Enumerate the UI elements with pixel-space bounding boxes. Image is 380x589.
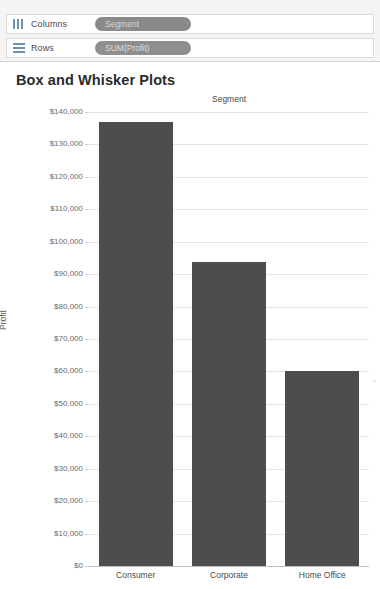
- y-tick-label: $20,000: [54, 496, 83, 505]
- y-tick-mark: [85, 112, 89, 113]
- rows-shelf-label: Rows: [31, 43, 95, 53]
- y-tick-mark: [85, 274, 89, 275]
- y-tick-mark: [85, 566, 89, 567]
- y-tick-label: $70,000: [54, 334, 83, 343]
- y-tick-label: $60,000: [54, 366, 83, 375]
- y-tick-label: $0: [74, 561, 83, 570]
- y-tick-mark: [85, 242, 89, 243]
- y-tick-label: $90,000: [54, 269, 83, 278]
- x-tick-label: Consumer: [89, 570, 182, 580]
- bar-mark[interactable]: [99, 122, 173, 566]
- rows-shelf[interactable]: Rows SUM(Profit): [6, 38, 374, 58]
- y-tick-mark: [85, 501, 89, 502]
- columns-shelf[interactable]: Columns Segment: [6, 14, 374, 34]
- shelf-panel: Columns Segment Rows SUM(Profit): [0, 0, 380, 62]
- columns-shelf-label: Columns: [31, 19, 95, 29]
- y-tick-label: $100,000: [50, 237, 83, 246]
- x-tick-label: Home Office: [276, 570, 369, 580]
- y-tick-mark: [85, 436, 89, 437]
- plot-canvas: [89, 112, 369, 566]
- x-axis-labels: ConsumerCorporateHome Office: [89, 570, 369, 584]
- pill-sum-profit[interactable]: SUM(Profit): [95, 41, 191, 55]
- y-tick-label: $80,000: [54, 302, 83, 311]
- y-tick-mark: [85, 404, 89, 405]
- y-tick-label: $120,000: [50, 172, 83, 181]
- y-tick-mark: [85, 339, 89, 340]
- y-tick-mark: [85, 144, 89, 145]
- y-tick-label: $10,000: [54, 529, 83, 538]
- gridline: [89, 112, 369, 113]
- y-tick-mark: [85, 177, 89, 178]
- y-axis-labels: $0$10,000$20,000$30,000$40,000$50,000$60…: [27, 112, 83, 566]
- y-tick-label: $30,000: [54, 464, 83, 473]
- y-tick-label: $130,000: [50, 139, 83, 148]
- y-tick-mark: [85, 209, 89, 210]
- y-tick-label: $40,000: [54, 431, 83, 440]
- bar-mark[interactable]: [285, 371, 359, 566]
- x-tick-label: Corporate: [182, 570, 275, 580]
- y-tick-mark: [85, 307, 89, 308]
- y-tick-mark: [85, 469, 89, 470]
- page-title: Box and Whisker Plots: [16, 72, 175, 88]
- axis-baseline: [89, 566, 369, 567]
- y-tick-label: $110,000: [50, 204, 83, 213]
- column-field-header: Segment: [89, 94, 369, 104]
- edge-marker: ×: [372, 378, 376, 384]
- y-tick-mark: [85, 534, 89, 535]
- chart-area: Segment Profit $0$10,000$20,000$30,000$4…: [0, 90, 380, 589]
- y-tick-label: $140,000: [50, 107, 83, 116]
- y-tick-mark: [85, 371, 89, 372]
- y-tick-label: $50,000: [54, 399, 83, 408]
- pill-segment[interactable]: Segment: [95, 17, 191, 31]
- rows-icon: [13, 43, 25, 53]
- y-axis-title: Profit: [0, 310, 8, 330]
- columns-icon: [13, 19, 25, 29]
- bar-mark[interactable]: [192, 262, 266, 566]
